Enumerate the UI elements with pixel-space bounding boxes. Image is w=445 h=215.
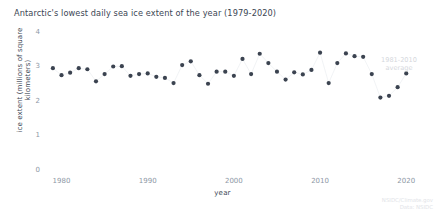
data-point <box>163 76 167 80</box>
data-point <box>111 64 115 68</box>
data-point <box>206 82 210 86</box>
connector-path <box>53 53 406 98</box>
annotation-line-2: average <box>366 64 432 72</box>
data-point <box>68 71 72 75</box>
data-point <box>94 79 98 83</box>
data-point <box>180 63 184 67</box>
x-axis-label: year <box>0 189 445 197</box>
data-point <box>128 74 132 78</box>
data-point <box>283 78 287 82</box>
data-point <box>396 85 400 89</box>
data-point <box>103 72 107 76</box>
data-point <box>387 94 391 98</box>
data-point <box>59 73 63 77</box>
data-point <box>327 81 331 85</box>
data-point <box>232 74 236 78</box>
annotation-line-1: 1981-2010 <box>366 56 432 64</box>
x-tick-label: 2010 <box>300 177 340 185</box>
data-point <box>223 70 227 74</box>
data-point <box>51 66 55 70</box>
average-annotation: 1981-2010 average <box>366 56 432 73</box>
data-point <box>171 81 175 85</box>
data-point <box>301 72 305 76</box>
chart-title: Antarctic's lowest daily sea ice extent … <box>14 8 276 18</box>
x-tick-label: 1980 <box>42 177 82 185</box>
connector-lines <box>53 53 406 98</box>
data-point <box>292 70 296 74</box>
data-point <box>352 54 356 58</box>
data-point <box>275 70 279 74</box>
x-tick-label: 2020 <box>386 177 426 185</box>
data-point <box>344 51 348 55</box>
data-point <box>197 73 201 77</box>
data-point <box>215 70 219 74</box>
data-point <box>189 59 193 63</box>
x-tick-label: 2000 <box>214 177 254 185</box>
data-point <box>85 67 89 71</box>
data-point <box>137 72 141 76</box>
data-point <box>146 71 150 75</box>
sea-ice-extent-chart: Antarctic's lowest daily sea ice extent … <box>0 0 445 215</box>
data-point <box>335 61 339 65</box>
data-point <box>318 51 322 55</box>
data-point <box>361 55 365 59</box>
credit-line-1: NSIDC/Climate.gov <box>382 197 433 203</box>
y-tick-label: 0 <box>26 166 40 174</box>
data-point <box>240 57 244 61</box>
data-point <box>378 95 382 99</box>
data-point <box>120 64 124 68</box>
y-axis-label: ice extent (millions of square kilometer… <box>16 10 32 150</box>
x-tick-label: 1990 <box>128 177 168 185</box>
data-point <box>309 68 313 72</box>
chart-credit: NSIDC/Climate.gov Data: NSIDC <box>382 197 433 210</box>
data-point <box>77 66 81 70</box>
data-point <box>249 72 253 76</box>
data-point <box>258 52 262 56</box>
data-point <box>154 75 158 79</box>
credit-line-2: Data: NSIDC <box>382 204 433 210</box>
data-point <box>266 61 270 65</box>
data-points <box>51 51 409 100</box>
